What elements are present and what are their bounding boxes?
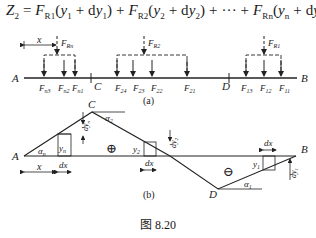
point-b-label-b: B <box>301 143 308 155</box>
resultant-r1-label: FR1 <box>267 38 280 49</box>
alpha-1-label: α1 <box>244 179 252 190</box>
load-group-1: FR1 F13 F12 F11 <box>240 36 290 94</box>
alpha-2-label: α2 <box>105 113 113 124</box>
alpha-n-label: αn <box>38 146 46 157</box>
group-n-bracket <box>44 55 75 74</box>
figure-caption: 图 8.20 <box>0 215 316 233</box>
dx-label: dx <box>145 158 154 168</box>
fig-a-label: (a) <box>143 95 154 107</box>
point-d-label-b: D <box>208 188 217 200</box>
point-a-label-b: A <box>11 150 19 162</box>
load-group-2: FR2 F24 F23 F22 F21 <box>114 36 196 94</box>
resultant-r2-label: FR2 <box>147 38 160 49</box>
load-label: F24 <box>114 83 127 94</box>
point-b-label: B <box>301 72 308 84</box>
load-label: Fn2 <box>57 83 70 94</box>
x-label-b: x <box>36 161 42 172</box>
point-a-label: A <box>11 72 19 84</box>
dy-1-label: dy1 <box>289 168 299 178</box>
dx-label: dx <box>264 138 273 148</box>
load-label: F12 <box>259 83 272 94</box>
load-label: Fn3 <box>38 83 51 94</box>
fig-b-label: (b) <box>143 189 155 201</box>
load-label: F22 <box>150 83 163 94</box>
figure-a: A B C D x FRn Fn3 Fn2 Fn1 FR2 <box>11 34 308 107</box>
point-c-label: C <box>94 80 102 92</box>
point-d-label: D <box>221 80 230 92</box>
load-label: F21 <box>183 83 196 94</box>
y-1-label: y1 <box>252 159 260 170</box>
dx-label: dx <box>59 160 68 170</box>
load-label: F13 <box>240 83 253 94</box>
figure-svg: A B C D x FRn Fn3 Fn2 Fn1 FR2 <box>0 0 316 238</box>
load-label: Fn1 <box>71 83 84 94</box>
dy-2-label: dy2 <box>169 137 179 148</box>
resultant-rn-label: FRn <box>60 38 73 49</box>
point-c-label-b: C <box>88 98 96 110</box>
dy-n-label: dyn <box>81 120 91 131</box>
negative-sign: ⊖ <box>223 164 234 179</box>
y-n-label: yn <box>58 143 66 154</box>
x-label: x <box>36 34 42 45</box>
load-label: F11 <box>278 83 290 94</box>
positive-sign: ⊕ <box>106 141 117 156</box>
figure-b: A B C D α2 αn α1 yn dyn x dx ⊕ y2 dx dy2 <box>11 98 308 201</box>
load-label: F23 <box>132 83 145 94</box>
y-2-label: y2 <box>132 144 140 155</box>
